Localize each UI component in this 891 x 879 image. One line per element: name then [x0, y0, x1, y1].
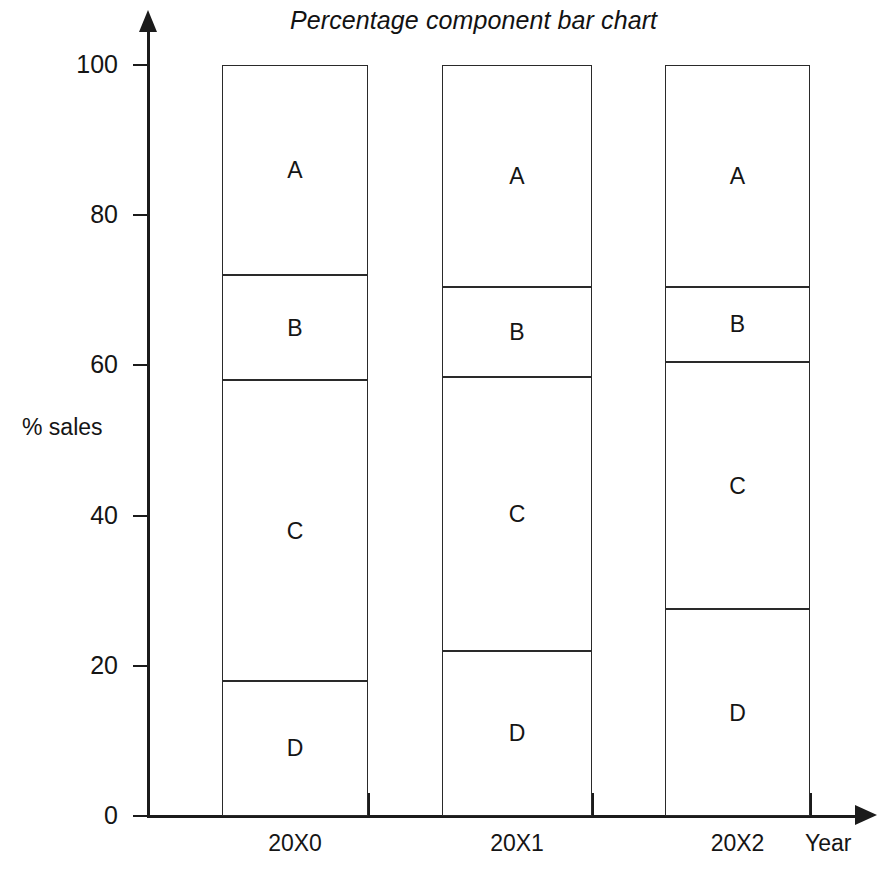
chart-page: Percentage component bar chart % sales Y… [0, 0, 891, 879]
bar-segment-label: B [666, 311, 809, 338]
bar-segment[interactable]: D [222, 681, 368, 816]
bar-segment-label: B [223, 314, 367, 341]
bar-segment[interactable]: A [665, 65, 810, 287]
y-axis-line [147, 28, 150, 817]
x-axis-tick-label: 20X2 [658, 830, 818, 857]
stacked-bar[interactable]: ABCD [665, 65, 810, 816]
x-axis-arrow-icon [855, 805, 877, 825]
bar-segment[interactable]: C [442, 377, 592, 651]
x-axis-tick-label: 20X0 [215, 830, 375, 857]
y-axis-arrow-icon [139, 10, 157, 32]
y-axis-tick [133, 364, 148, 366]
y-axis-title: % sales [22, 414, 103, 441]
chart-title: Percentage component bar chart [290, 6, 790, 35]
bar-segment[interactable]: B [665, 287, 810, 362]
bar-segment[interactable]: D [442, 651, 592, 816]
x-axis-tick [810, 793, 812, 817]
bar-segment-label: B [443, 318, 591, 345]
bar-segment-label: C [666, 472, 809, 499]
bar-segment-label: D [666, 699, 809, 726]
bar-segment-label: A [223, 157, 367, 184]
y-axis-tick-label: 20 [0, 653, 118, 678]
stacked-bar[interactable]: ABCD [442, 65, 592, 816]
bar-segment-label: D [443, 720, 591, 747]
bar-segment[interactable]: B [222, 275, 368, 380]
y-axis-tick [133, 214, 148, 216]
bar-segment-label: D [223, 735, 367, 762]
bar-segment[interactable]: D [665, 609, 810, 816]
y-axis-tick [133, 515, 148, 517]
y-axis-tick-label: 40 [0, 503, 118, 528]
bar-segment[interactable]: A [442, 65, 592, 287]
y-axis-tick [133, 815, 148, 817]
y-axis-tick-label: 0 [0, 803, 118, 828]
y-axis-tick-label: 80 [0, 202, 118, 227]
stacked-bar[interactable]: ABCD [222, 65, 368, 816]
y-axis-tick [133, 64, 148, 66]
x-axis-tick [592, 793, 594, 817]
bar-segment-label: A [666, 162, 809, 189]
bar-segment-label: C [443, 500, 591, 527]
x-axis-tick [368, 793, 370, 817]
bar-segment[interactable]: B [442, 287, 592, 377]
bar-segment-label: A [443, 162, 591, 189]
bar-segment-label: C [223, 517, 367, 544]
x-axis-tick-label: 20X1 [437, 830, 597, 857]
bar-segment[interactable]: C [665, 362, 810, 610]
y-axis-tick-label: 100 [0, 52, 118, 77]
bar-segment[interactable]: A [222, 65, 368, 275]
y-axis-tick [133, 665, 148, 667]
bar-segment[interactable]: C [222, 380, 368, 680]
y-axis-tick-label: 60 [0, 352, 118, 377]
